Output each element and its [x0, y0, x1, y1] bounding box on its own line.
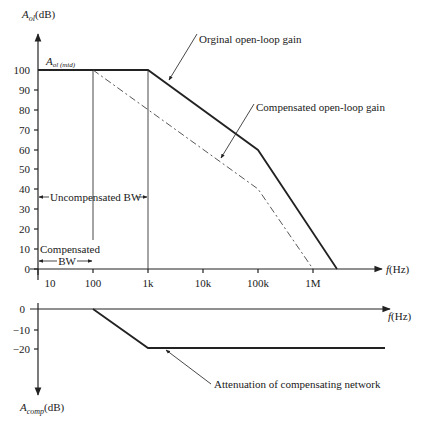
svg-text:100k: 100k: [247, 277, 270, 289]
svg-text:−10: −10: [13, 324, 31, 336]
svg-text:60: 60: [19, 144, 31, 156]
compensated-bw-label-2: BW: [58, 255, 76, 267]
y-ticks-bottom: 0 −10 −20: [13, 303, 38, 355]
svg-text:90: 90: [19, 84, 31, 96]
compensated-bw-label: Compensated: [40, 243, 100, 255]
svg-text:10: 10: [45, 277, 57, 289]
svg-text:10k: 10k: [195, 277, 212, 289]
svg-text:20: 20: [19, 223, 31, 235]
compensating-network-chart: 0 −10 −20 f(Hz) Attenuation of compensat…: [13, 303, 412, 416]
compensated-gain-label: Compensated open-loop gain: [256, 101, 385, 113]
attenuation-label: Attenuation of compensating network: [214, 378, 381, 390]
aol-mid-label: Aol (mid): [45, 55, 76, 69]
svg-text:30: 30: [19, 203, 31, 215]
svg-text:0: 0: [25, 263, 31, 275]
compensated-gain-pointer: [221, 104, 254, 158]
svg-text:40: 40: [19, 183, 31, 195]
series-original-open-loop-gain: [38, 70, 337, 269]
svg-text:0: 0: [20, 303, 26, 315]
x-axis-label-bottom: f(Hz): [388, 310, 412, 323]
series-compensated-open-loop-gain: [93, 70, 313, 269]
svg-text:1M: 1M: [305, 277, 321, 289]
svg-text:1k: 1k: [143, 277, 155, 289]
y-axis-label-bottom: Acomp(dB): [19, 401, 65, 416]
attenuation-pointer: [166, 350, 211, 384]
svg-text:50: 50: [19, 163, 31, 175]
svg-text:80: 80: [19, 104, 31, 116]
svg-text:10: 10: [19, 243, 31, 255]
svg-text:70: 70: [19, 124, 31, 136]
x-ticks: 10 100 1k 10k 100k 1M: [38, 269, 321, 289]
y-ticks: 0 10 20 30 40 50 60 70 80 90 100: [14, 64, 39, 275]
svg-text:−20: −20: [13, 343, 31, 355]
bode-plot-figure: Aol(dB) 0 10 20 30 40 50 60 70 80: [0, 0, 425, 424]
svg-text:100: 100: [14, 64, 31, 76]
open-loop-gain-chart: Aol(dB) 0 10 20 30 40 50 60 70 80: [14, 8, 410, 289]
original-gain-pointer: [169, 34, 197, 80]
series-attenuation: [93, 309, 385, 348]
uncompensated-bw-label: Uncompensated BW: [50, 191, 142, 203]
x-axis-label: f(Hz): [386, 263, 410, 276]
original-gain-label: Orginal open-loop gain: [199, 33, 302, 45]
svg-text:100: 100: [85, 277, 102, 289]
y-axis-label: Aol(dB): [21, 8, 55, 23]
